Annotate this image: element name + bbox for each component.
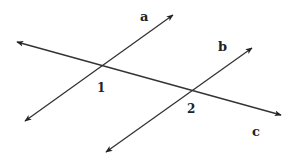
label-angle-2: 2 xyxy=(187,102,195,116)
line-c xyxy=(17,42,281,115)
label-line-c: c xyxy=(252,124,260,139)
label-line-a: a xyxy=(140,9,149,24)
line-a xyxy=(25,15,173,121)
label-line-b: b xyxy=(218,39,227,54)
transversal-diagram: a b c 1 2 xyxy=(0,0,294,160)
label-angle-1: 1 xyxy=(97,81,105,95)
line-b xyxy=(106,48,252,152)
